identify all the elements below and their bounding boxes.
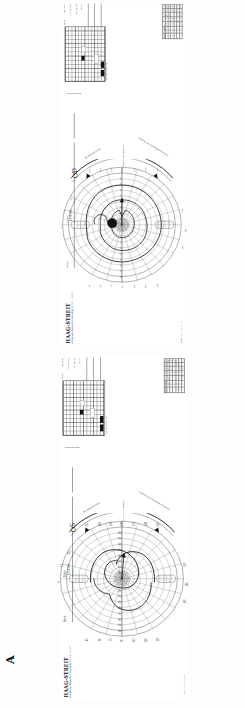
cell: 1,6 — [179, 8, 182, 12]
grid-marked-cell — [100, 416, 103, 423]
svg-text:80: 80 — [118, 275, 121, 278]
panel-letter: A — [4, 655, 17, 664]
inset-caption-left-upper: Dunkel-Zentrum — [66, 92, 80, 94]
param-luminance-lower: Leuchtdichte — [72, 358, 75, 370]
brand-logo-lower: HAAG-STREIT Goldmann-Perimeter Visierfel… — [63, 646, 71, 697]
svg-text:50: 50 — [118, 194, 121, 197]
svg-text:15: 15 — [63, 209, 66, 212]
svg-text:10: 10 — [118, 235, 121, 238]
svg-text:300: 300 — [98, 521, 101, 526]
grid-light-cell — [89, 408, 93, 417]
parameter-block-upper: Isopteren Durchmesser Leuchtdichte Objek… — [62, 4, 108, 82]
grid-marked-cell — [100, 70, 103, 76]
polar-plot-lower: 45 60 75 90 105 120 135 0 15 30 315 300 … — [55, 513, 189, 644]
svg-text:20: 20 — [118, 240, 121, 243]
svg-text:285: 285 — [110, 167, 113, 172]
arc-note-1-upper: Bei Halbkugel-Schirm — [84, 148, 101, 159]
table-row: 63e0,0250,100,401,66,3 — [181, 359, 184, 393]
brand-logo-upper: HAAG-STREIT Goldmann-Perimeter Visierfel… — [65, 292, 73, 343]
svg-text:10: 10 — [118, 217, 121, 220]
svg-text:50: 50 — [118, 258, 121, 261]
svg-text:80: 80 — [118, 629, 121, 632]
luminance-profile-grid-upper — [64, 27, 105, 82]
extra-field-2-lower[interactable] — [67, 467, 73, 492]
svg-text:270: 270 — [120, 521, 123, 526]
grid-marked-cell — [79, 410, 82, 415]
grid-light-cell — [81, 46, 85, 52]
svg-text:180: 180 — [183, 228, 186, 233]
isopter-table-upper: Isopter Objekt I II III IV V 14e0,251,04… — [162, 5, 182, 40]
svg-text:270: 270 — [120, 167, 123, 172]
arc-note-1-lower: Bei Halbkugel-Schirm — [82, 502, 100, 513]
svg-text:40: 40 — [118, 554, 121, 557]
arc-note-3-upper: Die Gesichtsfeldgrenze in der Peripherie — [137, 137, 168, 157]
svg-text:0: 0 — [57, 580, 60, 582]
arc-note-2-lower: Objekt V/4 bei Randschnitt — [121, 498, 123, 520]
svg-text:30: 30 — [68, 551, 71, 554]
svg-text:120: 120 — [144, 284, 147, 289]
svg-text:30: 30 — [118, 600, 121, 603]
svg-text:90: 90 — [120, 285, 123, 288]
svg-text:60: 60 — [118, 188, 121, 191]
svg-text:180: 180 — [185, 582, 188, 587]
svg-text:80: 80 — [118, 176, 121, 179]
svg-text:315: 315 — [86, 522, 89, 527]
svg-text:60: 60 — [118, 263, 121, 266]
svg-text:285: 285 — [109, 521, 112, 526]
cell: 1,6 — [181, 362, 184, 366]
figure-page: HAAG-STREIT Goldmann-Perimeter Visierfel… — [0, 0, 245, 708]
cell: 6,3 — [181, 359, 184, 363]
perimetry-chart-lower: HAAG-STREIT Goldmann-Perimeter Visierfel… — [59, 355, 187, 700]
svg-text:30: 30 — [70, 197, 73, 200]
cell: 3e — [181, 381, 184, 387]
table-row: 63e0,0250,100,401,66,3 — [179, 5, 182, 39]
svg-text:120: 120 — [145, 638, 148, 643]
sheet-footer-lower: Printed in U.S.A. No. 2 0 0 0 — [182, 674, 184, 698]
luminance-profile-grid-lower — [62, 381, 105, 436]
inset-caption-right-upper: Nahzu — [63, 20, 65, 25]
param-diameter-upper: Durchmesser — [69, 4, 72, 16]
svg-text:60: 60 — [98, 638, 101, 641]
param-object-upper: Objekt — [79, 4, 82, 10]
grid-marked-cell — [100, 424, 103, 431]
svg-text:105: 105 — [133, 638, 136, 643]
cell: 0,10 — [181, 371, 184, 376]
params-title-lower: Isopteren — [60, 358, 63, 367]
svg-text:300: 300 — [99, 167, 102, 172]
svg-text:240: 240 — [145, 521, 148, 526]
svg-text:60: 60 — [118, 542, 121, 545]
cell: 0,025 — [179, 21, 182, 27]
param-object-lower: Objekt — [78, 358, 81, 364]
svg-text:30: 30 — [118, 246, 121, 249]
grid-marked-cell — [81, 56, 84, 61]
params-title-upper: Isopteren — [62, 4, 65, 13]
svg-text:70: 70 — [118, 536, 121, 539]
cell: 0,40 — [181, 366, 184, 371]
svg-text:40: 40 — [118, 606, 121, 609]
svg-text:40: 40 — [118, 199, 121, 202]
polar-plot-upper: 45 60 75 90 105 120 135 0 15 30 315 300 … — [58, 159, 188, 290]
svg-text:10: 10 — [118, 571, 121, 574]
svg-text:135: 135 — [156, 637, 159, 642]
cell: 0,40 — [179, 12, 182, 17]
svg-text:15: 15 — [61, 563, 64, 566]
svg-text:255: 255 — [132, 167, 135, 172]
svg-text:75: 75 — [110, 284, 113, 287]
grid-marked-cell — [100, 62, 103, 68]
svg-text:50: 50 — [118, 548, 121, 551]
param-diameter-lower: Durchmesser — [67, 358, 70, 370]
svg-text:165: 165 — [181, 245, 184, 250]
extra-field-2-upper[interactable] — [69, 113, 74, 138]
svg-text:70: 70 — [118, 269, 121, 272]
sheet-footer-upper: Made in U.S.A. No. 1 4 0 1 — [180, 321, 182, 343]
arc-note-2-upper: Objekt V/4 bei Randschnitt — [121, 144, 123, 166]
param-luminance-upper: Leuchtdichte — [74, 4, 77, 16]
svg-text:60: 60 — [99, 284, 102, 287]
svg-text:255: 255 — [133, 521, 136, 526]
svg-text:195: 195 — [183, 562, 186, 567]
grid-light-cell — [94, 54, 98, 63]
th: Objekt — [164, 381, 167, 387]
svg-text:20: 20 — [118, 211, 121, 214]
svg-text:30: 30 — [118, 205, 121, 208]
svg-text:225: 225 — [156, 522, 159, 527]
